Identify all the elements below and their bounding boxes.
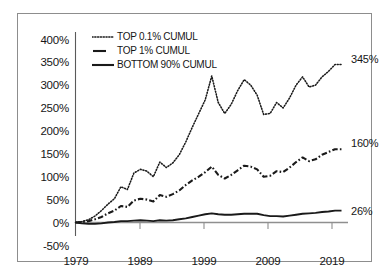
legend-label-bottom90: BOTTOM 90% CUMUL (117, 60, 217, 70)
legend-item-top1: TOP 1% CUMUL (92, 44, 217, 57)
end-label-bottom90: 26% (351, 206, 372, 217)
chart-screenshot: 400% 350% 300% 250% 200% 150% 100% 50% 0… (0, 0, 390, 276)
chart-legend: TOP 0.1% CUMUL TOP 1% CUMUL BOTTOM 90% C… (92, 30, 217, 72)
chart-frame: 400% 350% 300% 250% 200% 150% 100% 50% 0… (17, 13, 372, 262)
legend-key-dotted-icon (92, 32, 114, 42)
legend-label-top1: TOP 1% CUMUL (117, 46, 190, 56)
legend-item-bottom90: BOTTOM 90% CUMUL (92, 58, 217, 71)
series-line (76, 149, 342, 222)
series-layer (76, 64, 342, 223)
legend-key-solid-icon (92, 60, 114, 70)
end-label-top01: 345% (351, 54, 378, 65)
series-line (76, 64, 342, 222)
end-label-top1: 160% (351, 138, 378, 149)
legend-label-top01: TOP 0.1% CUMUL (117, 32, 198, 42)
legend-key-dashdot-icon (92, 46, 114, 56)
legend-item-top01: TOP 0.1% CUMUL (92, 30, 217, 43)
